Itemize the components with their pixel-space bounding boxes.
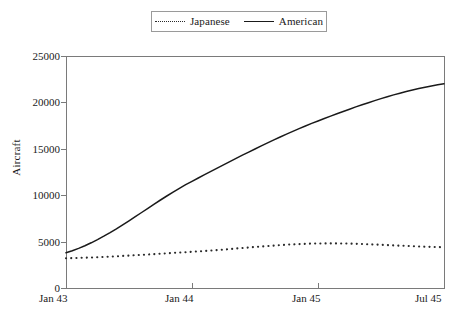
axis-frame	[66, 56, 445, 289]
x-tick-marks	[67, 283, 445, 288]
plot-area	[0, 0, 465, 311]
chart-container: Japanese American Aircraft 25000 20000 1…	[0, 0, 465, 311]
series-line-american	[66, 84, 444, 253]
y-tick-marks	[61, 57, 66, 289]
series-line-japanese	[66, 243, 444, 258]
